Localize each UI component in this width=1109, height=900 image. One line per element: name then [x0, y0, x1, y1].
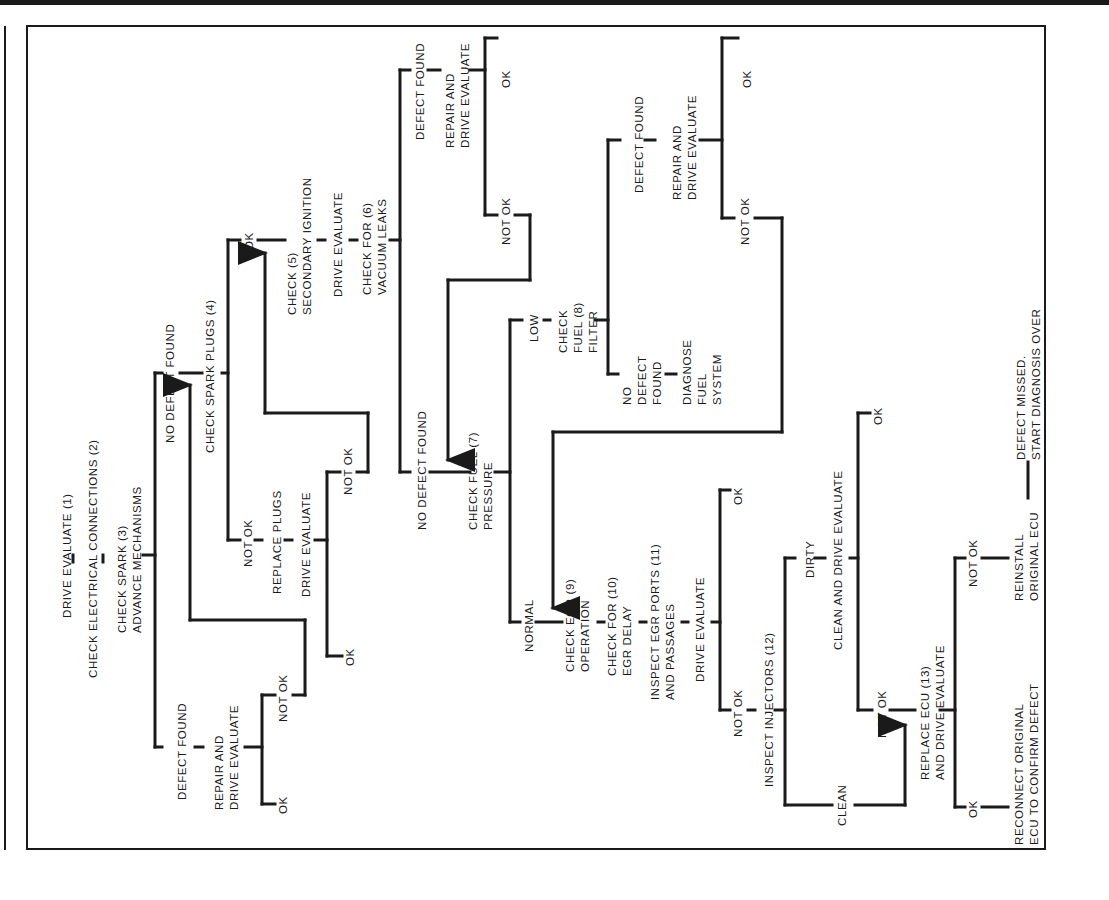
result-not-ok: NOT OK [731, 690, 746, 737]
result-ok: OK [242, 232, 257, 250]
branch-clean: CLEAN [835, 785, 850, 826]
step-repair-drive-evaluate: REPAIR AND DRIVE EVALUATE [212, 705, 242, 810]
result-not-ok: NOT OK [341, 448, 356, 495]
step-check-secondary-ignition-5: CHECK (5) SECONDARY IGNITION [285, 177, 315, 315]
step-check-spark-plugs-4: CHECK SPARK PLUGS (4) [203, 299, 218, 453]
result-ok: OK [740, 70, 755, 88]
result-not-ok: NOT OK [875, 691, 890, 738]
result-ok: OK [966, 800, 981, 818]
step-inspect-egr-ports-11: INSPECT EGR PORTS (11) AND PASSAGES [648, 544, 678, 700]
step-check-egr-delay-10: CHECK FOR (10) EGR DELAY [605, 576, 635, 676]
step-drive-evaluate: DRIVE EVALUATE [299, 492, 314, 597]
result-ok: OK [343, 648, 358, 666]
branch-no-defect-found: NO DEFECT FOUND [620, 355, 665, 405]
step-repair-drive-evaluate: REPAIR AND DRIVE EVALUATE [443, 43, 473, 148]
step-check-electrical-2: CHECK ELECTRICAL CONNECTIONS (2) [86, 439, 101, 678]
terminal-defect-missed: DEFECT MISSED. START DIAGNOSIS OVER [1014, 309, 1044, 460]
branch-no-defect-found: NO DEFECT FOUND [415, 411, 430, 530]
step-check-spark-3: CHECK SPARK (3) ADVANCE MECHANISMS [115, 486, 145, 633]
result-not-ok: NOT OK [738, 198, 753, 245]
branch-low: LOW [527, 314, 542, 342]
step-drive-evaluate: DRIVE EVALUATE [693, 577, 708, 682]
step-reinstall-original-ecu: REINSTALL ORIGINAL ECU [1012, 512, 1042, 601]
step-inspect-injectors-12: INSPECT INJECTORS (12) [762, 632, 777, 787]
result-not-ok: NOT OK [241, 520, 256, 567]
step-repair-drive-evaluate: REPAIR AND DRIVE EVALUATE [670, 95, 700, 200]
result-ok: OK [731, 487, 746, 505]
branch-normal: NORMAL [522, 599, 537, 652]
result-not-ok: NOT OK [966, 540, 981, 587]
step-replace-plugs: REPLACE PLUGS [270, 490, 285, 594]
result-not-ok: NOT OK [276, 675, 291, 722]
step-drive-evaluate-1: DRIVE EVALUATE (1) [60, 493, 75, 618]
result-ok: OK [871, 407, 886, 425]
result-not-ok: NOT OK [499, 198, 514, 245]
result-ok: OK [276, 796, 291, 814]
step-check-vacuum-leaks-6: CHECK FOR (6) VACUUM LEAKS [360, 199, 390, 295]
step-drive-evaluate: DRIVE EVALUATE [331, 192, 346, 297]
terminal-reconnect-original-ecu: RECONNECT ORIGINAL ECU TO CONFIRM DEFECT [1012, 683, 1042, 845]
step-replace-ecu-13: REPLACE ECU (13) AND DRIVE EVALUATE [918, 645, 948, 780]
step-check-fuel-filter-8: CHECK FUEL (8) FILTER [556, 302, 601, 353]
step-check-fuel-pressure-7: CHECK FUEL (7) PRESSURE [466, 432, 496, 530]
step-diagnose-fuel-system: DIAGNOSE FUEL SYSTEM [680, 339, 725, 405]
branch-no-defect-found: NO DEFECT FOUND [163, 324, 178, 443]
branch-defect-found: DEFECT FOUND [632, 96, 647, 193]
branch-defect-found: DEFECT FOUND [175, 703, 190, 800]
step-check-egr-operation-9: CHECK EGR (9) OPERATION [563, 579, 593, 672]
result-ok: OK [499, 70, 514, 88]
branch-dirty: DIRTY [803, 541, 818, 578]
branch-defect-found: DEFECT FOUND [413, 43, 428, 140]
step-clean-drive-evaluate: CLEAN AND DRIVE EVALUATE [831, 471, 846, 651]
